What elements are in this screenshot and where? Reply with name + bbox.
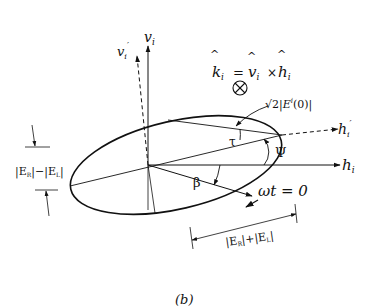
svg-text:^: ^ xyxy=(210,48,219,61)
tau-chord xyxy=(168,120,282,135)
panel-label: (b) xyxy=(175,292,193,307)
svg-text:×: × xyxy=(267,66,277,80)
psi-arc xyxy=(264,139,269,165)
major-axis-label: |ER|+|EL| xyxy=(225,229,275,250)
minor-axis-label: |ER|−|EL| xyxy=(15,165,64,179)
v-prime-axis-label: vi′ xyxy=(117,41,129,61)
tau-label: τ xyxy=(229,135,236,149)
h-prime-axis-solid xyxy=(70,135,282,186)
svg-text:hi: hi xyxy=(278,63,291,82)
start-arrow xyxy=(246,200,258,207)
beta-label: β xyxy=(193,175,201,190)
polarization-ellipse-diagram: vi vi′ hi hi′ ki = vi × hi ^ ^ ^ √2|Ei(0… xyxy=(0,0,368,307)
start-time-label: ωt = 0 xyxy=(258,182,308,200)
psi-label: Ψ xyxy=(275,145,286,160)
beta-arc xyxy=(214,165,220,185)
amplitude-label: √2|Ei(0)| xyxy=(265,97,312,112)
svg-text:^: ^ xyxy=(247,50,256,63)
h-prime-axis-label: hi′ xyxy=(338,119,352,139)
svg-text:=: = xyxy=(233,65,244,80)
propagation-equation: ki = vi × hi ^ ^ ^ xyxy=(210,48,291,82)
into-page-icon xyxy=(233,81,247,95)
v-prime-axis xyxy=(137,56,148,165)
v-axis-label: vi xyxy=(144,29,155,47)
svg-text:^: ^ xyxy=(277,48,286,61)
svg-text:vi: vi xyxy=(248,63,259,82)
h-axis-label: hi xyxy=(342,156,355,175)
v-prime-axis-lower xyxy=(148,165,155,213)
h-prime-axis-dashed xyxy=(282,129,338,135)
svg-text:ki: ki xyxy=(212,63,224,82)
